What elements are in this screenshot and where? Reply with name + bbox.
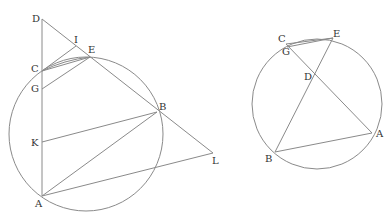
line-KB [42, 112, 157, 142]
label-D: D [32, 13, 40, 24]
left-figure: D I E C G B K L A [9, 13, 219, 211]
line-AL [42, 153, 213, 196]
line-CE [42, 57, 90, 71]
label-G: G [31, 83, 39, 94]
label-L: L [212, 155, 219, 166]
line-DL [42, 19, 213, 153]
line-AB-right [275, 133, 372, 152]
right-circle [252, 39, 382, 169]
label-D-right: D [304, 71, 312, 82]
label-B-right: B [265, 153, 272, 164]
line-CA [286, 44, 372, 133]
label-E-right: E [333, 28, 340, 39]
line-AB [42, 112, 157, 196]
label-C: C [31, 63, 39, 74]
label-G-right: G [282, 46, 290, 57]
label-E: E [88, 44, 95, 55]
geometry-diagram: D I E C G B K L A C G E D A B [0, 0, 392, 220]
label-A: A [34, 198, 43, 209]
right-figure: C G E D A B [252, 28, 384, 169]
left-circle [9, 57, 163, 211]
label-C-right: C [278, 33, 286, 44]
label-I: I [74, 34, 78, 45]
label-K: K [31, 137, 39, 148]
label-B: B [159, 101, 166, 112]
label-A-right: A [375, 128, 384, 139]
